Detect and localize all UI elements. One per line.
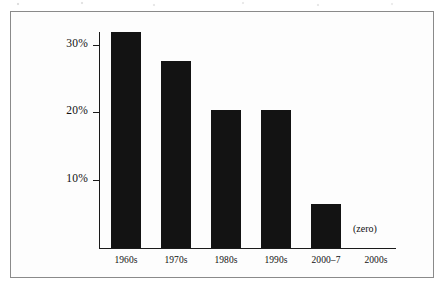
y-axis-line <box>99 32 100 249</box>
x-axis-label-2000s: 2000s <box>351 255 401 265</box>
bar-chart-plot-area: 10%20%30% 1960s1970s1980s1990s2000–72000… <box>11 12 435 279</box>
y-axis-tick-label: 30% <box>66 37 93 49</box>
x-axis-label-1990s: 1990s <box>251 255 301 265</box>
x-axis-label-1960s: 1960s <box>101 255 151 265</box>
y-axis-tick-10pct: 10% <box>93 180 100 181</box>
bar-1980s <box>211 110 241 248</box>
x-axis-label-1980s: 1980s <box>201 255 251 265</box>
bar-1990s <box>261 110 291 248</box>
bar-2000–7 <box>311 204 341 248</box>
bar-1960s <box>111 32 141 248</box>
bar-1970s <box>161 61 191 248</box>
x-axis-label-1970s: 1970s <box>151 255 201 265</box>
figure-frame: 10%20%30% 1960s1970s1980s1990s2000–72000… <box>10 11 434 278</box>
y-axis-tick-30pct: 30% <box>93 45 100 46</box>
y-axis-tick-20pct: 20% <box>93 112 100 113</box>
x-axis-label-2000–7: 2000–7 <box>301 255 351 265</box>
y-axis-tick-label: 10% <box>66 172 93 184</box>
zero-annotation: (zero) <box>353 223 377 234</box>
y-axis-tick-label: 20% <box>66 104 93 116</box>
scan-noise <box>0 0 446 11</box>
x-axis-line <box>99 248 396 249</box>
